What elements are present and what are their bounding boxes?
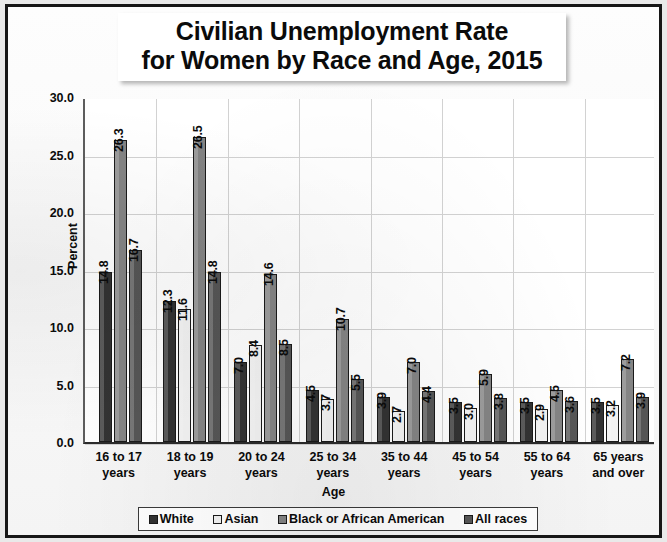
bar: [99, 272, 112, 442]
gridline: [85, 157, 654, 158]
bar-value-label: 2.9: [533, 404, 547, 421]
bar-highlight: [280, 345, 284, 441]
legend-item: White: [149, 512, 194, 526]
bar-highlight: [194, 138, 198, 441]
x-axis-tick-line: years: [369, 466, 440, 482]
bar-value-label: 14.6: [262, 263, 276, 287]
bar-highlight: [265, 275, 269, 441]
legend-item: Black or African American: [278, 512, 444, 526]
legend-swatch-icon: [149, 515, 158, 524]
x-axis-tick-label: 45 to 54years: [440, 450, 511, 481]
y-axis-tick-label: 25.0: [22, 149, 74, 163]
legend-swatch-icon: [213, 515, 222, 524]
bar: [178, 309, 191, 442]
bar-highlight: [337, 320, 341, 441]
y-axis-tick-label: 10.0: [22, 321, 74, 335]
bar: [129, 250, 142, 442]
chart-title-line-2: for Women by Race and Age, 2015: [124, 46, 560, 75]
bar-value-label: 10.7: [334, 307, 348, 331]
x-axis-tick-label: 16 to 17years: [83, 450, 154, 481]
bar-highlight: [100, 273, 104, 441]
bar-value-label: 11.6: [176, 298, 190, 321]
legend-swatch-icon: [464, 515, 473, 524]
gridline: [85, 444, 654, 445]
bar-highlight: [164, 302, 168, 441]
bar-value-label: 8.4: [247, 341, 261, 358]
bar: [163, 301, 176, 442]
y-axis-tick-label: 0.0: [22, 436, 74, 450]
bar: [279, 344, 292, 442]
group-separator: [585, 99, 586, 442]
bar-value-label: 4.4: [420, 387, 434, 404]
bar-value-label: 4.5: [548, 385, 562, 402]
y-axis-tick-label: 30.0: [22, 91, 74, 105]
x-axis-tick-line: 25 to 34: [297, 450, 368, 466]
x-axis-tick-line: 16 to 17: [83, 450, 154, 466]
x-axis-tick-line: 20 to 24: [226, 450, 297, 466]
bar-value-label: 3.5: [589, 397, 603, 414]
y-axis-tick-label: 5.0: [22, 379, 74, 393]
group-separator: [228, 99, 229, 442]
chart-legend: WhiteAsianBlack or African AmericanAll r…: [138, 507, 538, 531]
bar: [249, 345, 262, 442]
bar-highlight: [235, 363, 239, 442]
bar-value-label: 3.9: [375, 392, 389, 409]
chart-screenshot: Civilian Unemployment Rate for Women by …: [0, 0, 667, 542]
x-axis-tick-line: years: [226, 466, 297, 482]
legend-label: Asian: [224, 512, 258, 526]
bar: [621, 359, 634, 442]
x-axis-tick-label: 25 to 34years: [297, 450, 368, 481]
y-axis-tick-label: 15.0: [22, 264, 74, 278]
bar-value-label: 14.8: [206, 260, 220, 284]
group-separator: [156, 99, 157, 442]
bar-value-label: 3.5: [447, 397, 461, 414]
x-axis-tick-line: years: [154, 466, 225, 482]
legend-label: All races: [475, 512, 527, 526]
bar-value-label: 2.7: [390, 406, 404, 423]
x-axis-tick-line: 35 to 44: [369, 450, 440, 466]
bar-highlight: [130, 251, 134, 441]
bar-value-label: 4.5: [304, 385, 318, 402]
bar-highlight: [622, 360, 626, 441]
x-axis-tick-line: years: [440, 466, 511, 482]
x-axis-tick-line: 45 to 54: [440, 450, 511, 466]
legend-label: Black or African American: [289, 512, 444, 526]
x-axis-tick-label: 35 to 44years: [369, 450, 440, 481]
bar-value-label: 7.0: [232, 357, 246, 374]
x-axis-tick-line: years: [297, 466, 368, 482]
x-axis-tick-line: 18 to 19: [154, 450, 225, 466]
plot-area: 14.826.316.712.311.626.514.87.08.414.68.…: [83, 99, 654, 444]
group-separator: [299, 99, 300, 442]
figure-frame: Civilian Unemployment Rate for Women by …: [5, 4, 662, 538]
group-separator: [442, 99, 443, 442]
bar-value-label: 26.5: [191, 126, 205, 150]
bar-value-label: 3.2: [604, 400, 618, 417]
bar-value-label: 12.3: [161, 289, 175, 313]
bar: [114, 140, 127, 442]
group-separator: [513, 99, 514, 442]
gridline: [85, 272, 654, 273]
bar-value-label: 3.0: [462, 403, 476, 420]
x-axis-tick-line: years: [511, 466, 582, 482]
bar-value-label: 3.6: [563, 396, 577, 413]
bar-value-label: 3.7: [319, 395, 333, 412]
bar-value-label: 14.8: [97, 260, 111, 284]
bar: [193, 137, 206, 442]
x-axis-tick-label: 18 to 19years: [154, 450, 225, 481]
y-axis-tick-label: 20.0: [22, 206, 74, 220]
bar-value-label: 7.0: [405, 357, 419, 374]
bar-highlight: [408, 363, 412, 442]
gridline: [85, 214, 654, 215]
x-axis-tick-line: 55 to 64: [511, 450, 582, 466]
bar-value-label: 3.5: [518, 397, 532, 414]
x-axis-tick-line: and over: [583, 466, 654, 482]
bar: [264, 274, 277, 442]
bar: [336, 319, 349, 442]
bar-highlight: [179, 310, 183, 441]
x-axis-tick-label: 55 to 64years: [511, 450, 582, 481]
bar-value-label: 16.7: [127, 238, 141, 262]
x-axis-tick-label: 65 yearsand over: [583, 450, 654, 481]
legend-item: All races: [464, 512, 527, 526]
bar-value-label: 8.5: [277, 339, 291, 356]
x-axis-tick-line: 65 years: [583, 450, 654, 466]
